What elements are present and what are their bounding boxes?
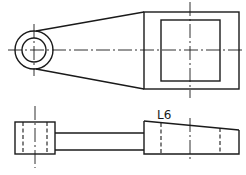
block-square-pocket xyxy=(161,20,220,81)
sloped-top-edge xyxy=(144,121,239,130)
arm-lower-edge xyxy=(36,69,144,89)
technical-drawing: L6 xyxy=(0,0,246,175)
arm-upper-edge xyxy=(36,12,144,31)
front-view: L6 xyxy=(15,106,239,168)
top-view xyxy=(8,2,244,98)
block-outer-outline xyxy=(144,12,239,89)
slope-label: L6 xyxy=(157,108,171,122)
